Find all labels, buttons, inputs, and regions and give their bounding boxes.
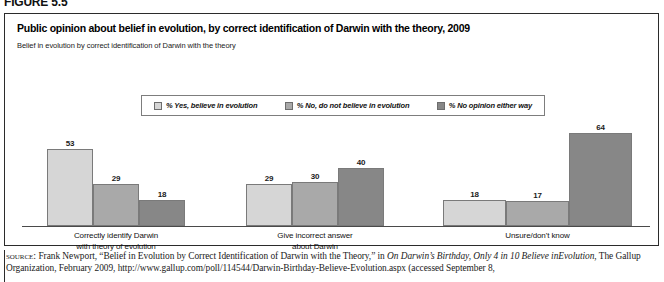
bar[interactable]: 40 [338,168,384,226]
bar-value-label: 64 [596,123,605,132]
figure-number: FIGURE 5.5 [4,0,67,8]
category-label-1: Correctly identify Darwinwith theory of … [7,230,225,252]
legend-item-no-opinion[interactable]: % No opinion either way [437,101,532,110]
source-title-italic-cont: Evolution [558,251,594,261]
legend-label-yes: % Yes, believe in evolution [166,101,257,110]
bar[interactable]: 64 [569,133,632,225]
bar[interactable]: 29 [246,184,292,226]
x-axis-line [22,226,650,228]
bar-group-1: 532918 [47,125,185,226]
bar[interactable]: 18 [139,200,185,226]
chart-title: Public opinion about belief in evolution… [17,22,470,34]
bar[interactable]: 53 [47,149,93,225]
legend-swatch-yes [154,102,162,110]
source-title-italic: On Darwin’s Birthday, Only 4 in 10 Belie… [387,251,558,261]
bar-value-label: 30 [311,172,320,181]
category-label-3: Unsure/don't know [403,230,664,241]
bar[interactable]: 18 [443,200,506,226]
legend-item-no[interactable]: % No, do not believe in evolution [285,101,410,110]
plot-area: 532918293040181764 [22,124,650,227]
bar-value-label: 53 [66,139,75,148]
bar-value-label: 29 [265,174,274,183]
legend-swatch-no-opinion [437,102,445,110]
chart-legend: % Yes, believe in evolution % No, do not… [141,95,545,116]
bar-value-label: 29 [112,174,121,183]
source-rule [4,250,5,282]
bar-value-label: 40 [357,158,366,167]
source-text-a: Frank Newport, “Belief in Evolution by C… [38,251,387,261]
chart-panel: Public opinion about belief in evolution… [4,13,659,246]
bar-value-label: 17 [533,191,542,200]
bar-group-2: 293040 [246,125,384,226]
bar-group-3: 181764 [443,125,632,226]
bar[interactable]: 17 [506,201,569,226]
legend-label-no-opinion: % No opinion either way [449,101,532,110]
legend-item-yes[interactable]: % Yes, believe in evolution [154,101,257,110]
category-label-2: Give incorrect answerabout Darwin [206,230,424,252]
chart-subtitle: Belief in evolution by correct identific… [17,41,236,50]
bar-value-label: 18 [158,190,167,199]
bar[interactable]: 30 [292,182,338,225]
bar[interactable]: 29 [93,184,139,226]
legend-label-no: % No, do not believe in evolution [297,101,410,110]
source-note: source: Frank Newport, “Belief in Evolut… [6,250,660,274]
source-label: source: [6,250,36,261]
bar-value-label: 18 [470,190,479,199]
legend-swatch-no [285,102,293,110]
